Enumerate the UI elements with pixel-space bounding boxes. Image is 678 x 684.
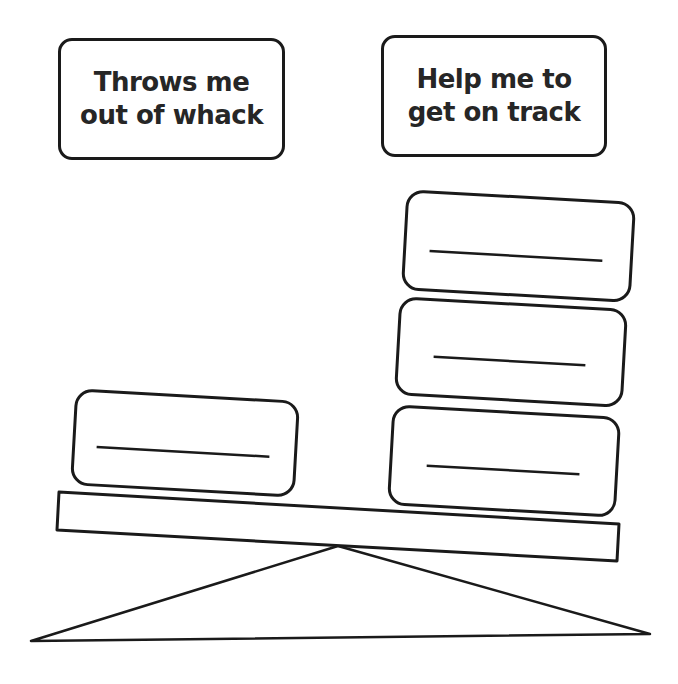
fulcrum-triangle	[31, 546, 650, 641]
left-block	[72, 390, 299, 496]
right-block-middle	[395, 298, 626, 406]
right-block-bottom	[388, 406, 619, 516]
right-block-top	[402, 191, 634, 302]
balance-scale-diagram	[0, 0, 678, 684]
